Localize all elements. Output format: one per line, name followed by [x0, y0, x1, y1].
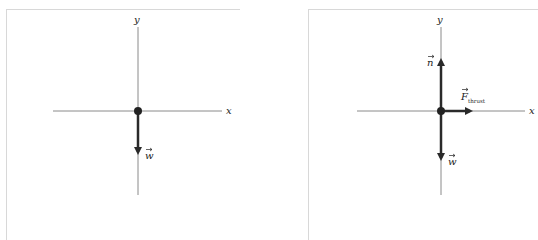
object-point: [437, 107, 445, 115]
panel-frame: [308, 9, 538, 240]
free-body-diagram-2: y x n F thrust w: [308, 9, 538, 240]
y-axis-label: y: [436, 14, 443, 25]
svg-text:thrust: thrust: [468, 98, 486, 104]
thrust-label: F thrust: [460, 88, 486, 104]
panel-frame: [6, 9, 240, 240]
x-axis-label: x: [226, 105, 232, 116]
object-point: [134, 107, 142, 115]
normal-label: n: [427, 55, 434, 68]
weight-label: w: [145, 148, 154, 161]
weight-label: w: [448, 154, 457, 167]
y-axis-label: y: [133, 14, 140, 25]
svg-text:n: n: [427, 57, 433, 68]
x-axis-label: x: [529, 105, 535, 116]
free-body-diagram-1: y x w: [6, 9, 240, 240]
svg-text:w: w: [145, 150, 154, 161]
svg-text:w: w: [448, 156, 457, 167]
